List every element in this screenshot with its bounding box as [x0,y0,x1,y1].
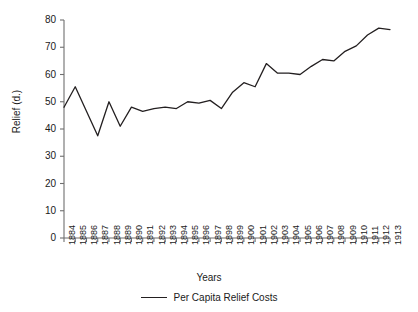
x-tick-label: 1889 [124,225,133,245]
x-tick-label: 1894 [180,225,189,245]
plot-area [0,0,418,312]
x-tick-label: 1896 [202,225,211,245]
data-line-per-capita-relief-costs [64,28,390,136]
x-tick-label: 1901 [259,225,268,245]
x-tick-label: 1888 [113,225,122,245]
x-tick-label: 1895 [191,225,200,245]
y-tick-label: 70 [20,42,56,52]
x-tick-label: 1904 [292,225,301,245]
y-tick-label: 10 [20,206,56,216]
x-tick-label: 1903 [281,225,290,245]
x-tick-label: 1902 [270,225,279,245]
chart-figure: Relief (d.) Years 01020304050607080 1884… [0,0,418,312]
x-tick-label: 1908 [337,225,346,245]
legend-line-swatch [141,297,167,298]
x-tick-label: 1913 [394,225,403,245]
x-tick-label: 1885 [79,225,88,245]
x-tick-label: 1912 [382,225,391,245]
legend-label: Per Capita Relief Costs [174,292,278,303]
chart-legend: Per Capita Relief Costs [0,292,418,303]
y-tick-label: 30 [20,151,56,161]
y-tick-label: 80 [20,15,56,25]
x-tick-label: 1892 [158,225,167,245]
x-tick-label: 1910 [360,225,369,245]
x-tick-label: 1907 [326,225,335,245]
x-tick-label: 1906 [315,225,324,245]
x-tick-label: 1898 [225,225,234,245]
y-tick-label: 20 [20,179,56,189]
x-tick-label: 1886 [90,225,99,245]
x-tick-label: 1893 [169,225,178,245]
x-tick-label: 1884 [68,225,77,245]
x-tick-label: 1890 [135,225,144,245]
x-tick-label: 1891 [146,225,155,245]
x-tick-label: 1900 [247,225,256,245]
x-tick-label: 1905 [304,225,313,245]
y-tick-label: 0 [20,233,56,243]
chart-svg [0,0,418,312]
y-tick-label: 40 [20,124,56,134]
y-tick-label: 60 [20,70,56,80]
x-tick-label: 1899 [236,225,245,245]
x-tick-label: 1897 [214,225,223,245]
x-tick-label: 1909 [349,225,358,245]
y-tick-label: 50 [20,97,56,107]
x-tick-label: 1911 [371,226,380,245]
x-tick-label: 1887 [101,225,110,245]
